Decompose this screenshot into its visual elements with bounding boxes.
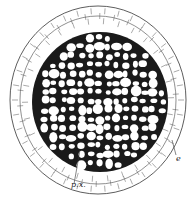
label-e: e [176, 154, 181, 163]
cell-section-drawing [0, 0, 194, 203]
cross-section-figure: p.x. e [0, 0, 194, 203]
label-px: p.x. [71, 180, 86, 189]
